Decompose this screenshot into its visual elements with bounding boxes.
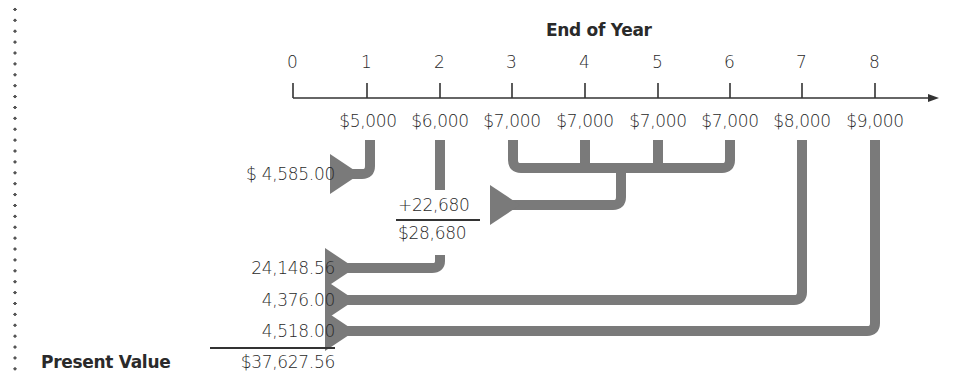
sum-rule-1 [396, 219, 480, 221]
present-value: $37,627.56 [180, 352, 335, 372]
pv-year8: 4,518.00 [180, 321, 335, 341]
time-axis [293, 83, 930, 98]
annuity-pv: +22,680 [398, 195, 470, 215]
pv-year1: $ 4,585.00 [180, 164, 335, 184]
bracket-annuity [513, 140, 730, 168]
pv-year7: 4,376.00 [180, 290, 335, 310]
year2-total: $28,680 [398, 223, 466, 243]
timeline-diagram [0, 0, 974, 375]
arrow-year1 [350, 140, 370, 174]
axis-arrow-icon [928, 94, 939, 102]
sum-rule-2 [210, 347, 335, 349]
arrow-year2-total [345, 255, 440, 268]
arrow-annuity [510, 168, 621, 205]
pv-year2-total: 24,148.56 [180, 258, 335, 278]
present-value-label: Present Value [41, 352, 170, 372]
